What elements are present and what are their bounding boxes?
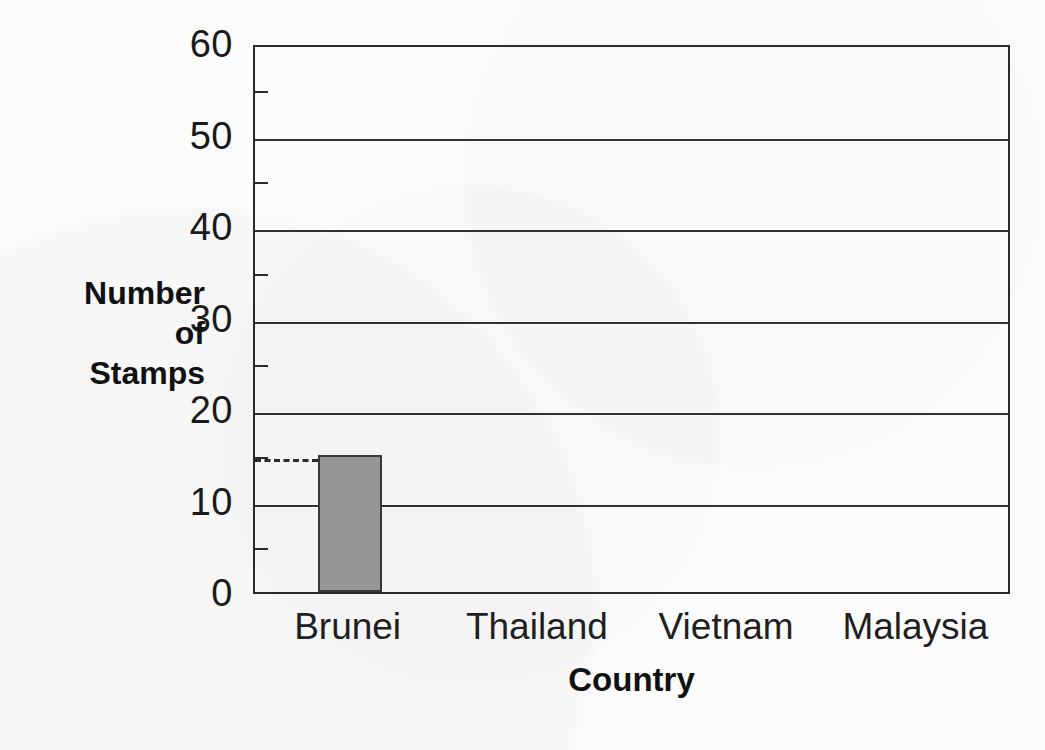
y-axis-tick-label: 10 — [113, 483, 233, 521]
category-label-thailand: Thailand — [442, 604, 631, 654]
y-axis-tick-label: 20 — [113, 391, 233, 429]
y-axis-tick-label: 0 — [113, 574, 233, 612]
y-axis-title-line-2: of — [20, 313, 205, 353]
gridline — [255, 322, 1008, 324]
category-label-malaysia: Malaysia — [821, 604, 1010, 654]
y-axis-tick-label: 50 — [113, 117, 233, 155]
y-axis-tick-label: 60 — [113, 25, 233, 63]
gridline — [255, 139, 1008, 141]
x-axis-title: Country — [253, 661, 1010, 699]
bar-brunei — [318, 455, 382, 592]
y-axis-tick-label: 40 — [113, 208, 233, 246]
gridline — [255, 413, 1008, 415]
gridline — [255, 230, 1008, 232]
bar-chart-figure: 0102030405060 Number of Stamps BruneiTha… — [0, 0, 1045, 750]
plot-area — [253, 45, 1010, 594]
y-axis-title: Number of Stamps — [20, 273, 205, 393]
x-axis-category-labels: BruneiThailandVietnamMalaysia — [253, 604, 1010, 654]
y-axis-title-line-1: Number — [20, 273, 205, 313]
y-axis-title-line-3: Stamps — [20, 353, 205, 393]
category-label-vietnam: Vietnam — [632, 604, 821, 654]
category-label-brunei: Brunei — [253, 604, 442, 654]
dashed-guide-line — [255, 459, 318, 462]
